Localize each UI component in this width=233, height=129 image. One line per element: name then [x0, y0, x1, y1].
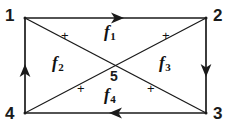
- face-label-f3: f3: [159, 54, 171, 73]
- orientation-sign-f2: +: [61, 29, 69, 42]
- face-label-f4-subscript: 4: [110, 93, 116, 105]
- face-label-f3-text: f: [159, 53, 165, 72]
- face-label-f2-text: f: [52, 53, 58, 72]
- vertex-label-1: 1: [5, 7, 14, 24]
- orientation-sign-f4-right: +: [147, 82, 155, 95]
- face-label-f1: f1: [104, 23, 116, 42]
- vertex-label-5: 5: [110, 69, 118, 83]
- vertex-dot-4: [24, 112, 27, 115]
- face-label-f4-text: f: [104, 85, 110, 104]
- orientation-sign-f3: +: [162, 29, 170, 42]
- face-label-f1-text: f: [104, 22, 110, 41]
- vertex-label-3: 3: [213, 105, 222, 122]
- face-label-f4: f4: [104, 86, 116, 105]
- face-label-f1-subscript: 1: [110, 30, 116, 42]
- face-label-f3-subscript: 3: [165, 61, 171, 73]
- vertex-dot-1: [24, 17, 27, 20]
- mesh-orientation-diagram: 1 2 3 4 5 f1 f2 f3 f4 + + + +: [0, 0, 233, 129]
- vertex-dot-3: [205, 112, 208, 115]
- face-label-f2-subscript: 2: [58, 61, 64, 73]
- face-label-f2: f2: [52, 54, 64, 73]
- vertex-label-2: 2: [213, 7, 222, 24]
- orientation-sign-f4-left: +: [77, 82, 85, 95]
- vertex-label-4: 4: [5, 105, 14, 122]
- diagram-canvas: [0, 0, 233, 129]
- vertex-dot-2: [205, 17, 208, 20]
